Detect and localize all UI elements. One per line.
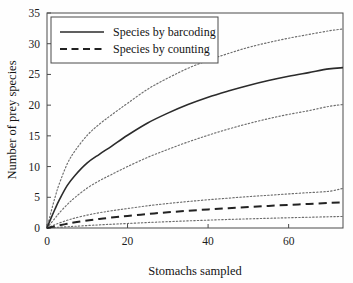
x-tick-label: 40 [202, 235, 214, 247]
y-tick-label: 5 [34, 191, 40, 203]
x-tick-label: 20 [122, 235, 134, 247]
legend-label-barcoding: Species by barcoding [113, 25, 216, 39]
y-tick-label: 30 [29, 38, 41, 50]
curve-species-by-counting-upper-ci [47, 188, 343, 228]
y-axis-ticks [47, 13, 51, 228]
figure-container: 0204060 05101520253035 Stomachs sampled … [0, 0, 353, 283]
y-tick-label: 10 [29, 161, 41, 173]
chart-legend: Species by barcoding Species by counting [51, 17, 218, 63]
species-accumulation-chart: 0204060 05101520253035 Stomachs sampled … [0, 0, 353, 283]
x-tick-label: 0 [44, 235, 50, 247]
x-tick-label: 60 [283, 235, 295, 247]
y-tick-label: 25 [29, 68, 41, 80]
x-axis-title: Stomachs sampled [148, 264, 242, 278]
x-axis-tick-labels: 0204060 [44, 235, 295, 247]
y-tick-label: 15 [29, 130, 41, 142]
curve-species-by-counting [47, 202, 343, 228]
legend-label-counting: Species by counting [113, 42, 210, 56]
y-tick-label: 20 [29, 99, 41, 111]
curve-species-by-counting-lower-ci [47, 216, 343, 228]
y-axis-title: Number of prey species [5, 60, 19, 179]
legend-box [51, 17, 218, 63]
y-tick-label: 35 [29, 7, 41, 19]
y-tick-label: 0 [34, 222, 40, 234]
y-axis-tick-labels: 05101520253035 [29, 7, 41, 234]
